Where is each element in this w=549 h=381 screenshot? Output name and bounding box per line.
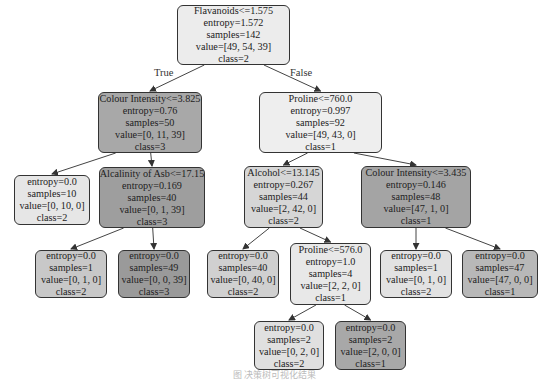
node-line: samples=142	[207, 29, 261, 41]
leaf-node-n14: entropy=0.0samples=2value=[2, 0, 0]class…	[335, 321, 406, 370]
edge-label-false: False	[290, 67, 312, 78]
node-line: entropy=1.572	[204, 17, 264, 29]
node-line: value=[0, 1, 39]	[119, 204, 184, 216]
node-line: entropy=0.0	[27, 176, 77, 188]
node-line: Alcalinity of Asb<=17.15	[100, 168, 205, 180]
leaf-node-n9: entropy=0.0samples=40value=[0, 40, 0]cla…	[207, 250, 279, 298]
split-node-n2: Proline<=760.0entropy=0.997samples=92val…	[259, 92, 382, 153]
split-node-n1: Colour Intensity<=3.825entropy=0.76sampl…	[98, 92, 202, 153]
node-line: samples=40	[128, 192, 177, 204]
tree-edge	[345, 305, 371, 320]
tree-edge	[354, 153, 416, 165]
node-line: value=[49, 54, 39]	[196, 41, 271, 53]
node-line: class=1	[401, 215, 432, 227]
node-line: Alcohol<=13.145	[247, 167, 319, 179]
node-line: Colour Intensity<=3.825	[100, 93, 201, 105]
node-line: entropy=0.146	[386, 179, 446, 191]
node-line: value=[0, 2, 0]	[259, 346, 319, 358]
leaf-node-n13: entropy=0.0samples=2value=[0, 2, 0]class…	[254, 321, 324, 370]
node-line: class=2	[268, 215, 299, 227]
node-line: samples=49	[130, 262, 179, 274]
node-line: Proline<=576.0	[299, 244, 363, 256]
tree-edge	[289, 305, 316, 320]
node-line: class=2	[218, 53, 249, 65]
figure-caption: 图 决策树可视化结果	[0, 368, 549, 381]
node-line: entropy=0.0	[129, 250, 179, 262]
node-line: samples=48	[392, 191, 441, 203]
node-line: samples=47	[476, 262, 525, 274]
split-node-n5: Alcohol<=13.145entropy=0.267samples=44va…	[244, 166, 323, 228]
node-line: value=[49, 43, 0]	[285, 129, 355, 141]
node-line: class=2	[37, 212, 68, 224]
node-line: entropy=0.0	[218, 250, 268, 262]
node-line: samples=4	[309, 268, 353, 280]
node-line: value=[0, 11, 39]	[115, 129, 185, 141]
node-line: value=[0, 40, 0]	[210, 274, 275, 286]
node-line: class=2	[228, 286, 259, 298]
node-line: entropy=0.0	[475, 250, 525, 262]
node-line: samples=92	[296, 117, 345, 129]
node-line: samples=1	[394, 262, 438, 274]
tree-edge	[284, 153, 308, 165]
node-line: Proline<=760.0	[289, 93, 353, 105]
node-line: class=1	[485, 286, 516, 298]
node-line: samples=44	[259, 191, 308, 203]
node-line: value=[47, 0, 0]	[467, 274, 532, 286]
node-line: class=3	[139, 286, 170, 298]
node-line: samples=2	[267, 334, 311, 346]
node-line: entropy=0.0	[46, 250, 96, 262]
node-line: Flavanoids<=1.575	[194, 5, 273, 17]
node-line: entropy=0.0	[391, 250, 441, 262]
node-line: samples=2	[349, 334, 393, 346]
node-line: value=[0, 10, 0]	[19, 200, 84, 212]
node-line: value=[0, 1, 0]	[386, 274, 446, 286]
node-line: value=[2, 2, 0]	[300, 280, 360, 292]
tree-edge	[153, 228, 154, 249]
node-line: value=[2, 0, 0]	[340, 346, 400, 358]
tree-edge	[300, 228, 331, 242]
node-line: Colour Intensity<=3.435	[366, 167, 467, 179]
node-line: value=[0, 0, 39]	[121, 274, 186, 286]
node-line: entropy=0.76	[123, 105, 178, 117]
leaf-node-n3: entropy=0.0samples=10value=[0, 10, 0]cla…	[14, 175, 90, 225]
leaf-node-n12: entropy=0.0samples=47value=[47, 0, 0]cla…	[462, 250, 538, 298]
node-line: class=2	[56, 286, 87, 298]
node-line: samples=1	[49, 262, 93, 274]
leaf-node-n8: entropy=0.0samples=49value=[0, 0, 39]cla…	[118, 250, 190, 298]
split-node-n10: Proline<=576.0entropy=1.0samples=4value=…	[290, 243, 371, 305]
node-line: entropy=0.169	[122, 180, 182, 192]
edge-label-true: True	[154, 67, 173, 78]
split-node-n6: Colour Intensity<=3.435entropy=0.146samp…	[361, 166, 471, 228]
split-node-n0: Flavanoids<=1.575entropy=1.572samples=14…	[177, 5, 290, 65]
node-line: samples=40	[219, 262, 268, 274]
node-line: entropy=0.0	[264, 322, 314, 334]
node-line: samples=10	[28, 188, 77, 200]
node-line: class=1	[315, 292, 346, 304]
leaf-node-n11: entropy=0.0samples=1value=[0, 1, 0]class…	[380, 250, 452, 298]
tree-edge	[445, 228, 500, 249]
leaf-node-n7: entropy=0.0samples=1value=[0, 1, 0]class…	[35, 250, 107, 298]
split-node-n4: Alcalinity of Asb<=17.15entropy=0.169sam…	[99, 167, 205, 228]
node-line: value=[2, 42, 0]	[251, 203, 316, 215]
node-line: entropy=1.0	[306, 256, 356, 268]
node-line: class=1	[305, 141, 336, 153]
node-line: class=3	[135, 141, 166, 153]
node-line: samples=50	[126, 117, 175, 129]
tree-edge	[71, 228, 124, 249]
node-line: class=2	[401, 286, 432, 298]
node-line: entropy=0.267	[254, 179, 314, 191]
node-line: value=[47, 1, 0]	[383, 203, 448, 215]
node-line: value=[0, 1, 0]	[41, 274, 101, 286]
tree-edge	[243, 228, 269, 249]
node-line: entropy=0.0	[346, 322, 396, 334]
tree-edge	[151, 153, 152, 166]
node-line: entropy=0.997	[291, 105, 351, 117]
node-line: class=3	[137, 216, 168, 228]
